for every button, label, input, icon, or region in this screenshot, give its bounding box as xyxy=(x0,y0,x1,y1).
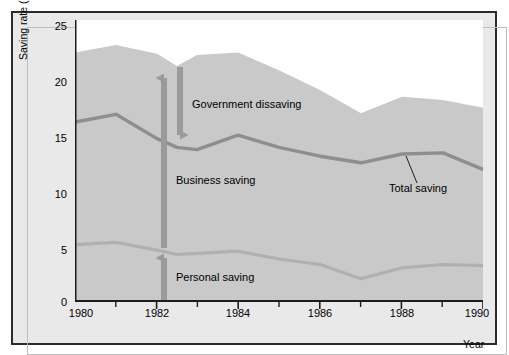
plot-area: Saving rate (percentage of GNP) 25 20 15… xyxy=(75,20,483,302)
chart-graphics xyxy=(75,20,483,330)
annotation-personal-saving: Personal saving xyxy=(176,272,254,283)
y-tick-label-25: 25 xyxy=(43,21,67,32)
y-axis-title: Saving rate (percentage of GNP) xyxy=(17,0,29,60)
y-tick-label-5: 5 xyxy=(43,245,67,256)
annotation-business-saving: Business saving xyxy=(176,175,256,186)
annotation-total-saving: Total saving xyxy=(389,183,447,194)
x-axis-ticks xyxy=(157,301,483,309)
x-axis-title: Year xyxy=(463,338,484,350)
figure: Saving rate (percentage of GNP) 25 20 15… xyxy=(0,0,509,355)
y-tick-label-15: 15 xyxy=(43,133,67,144)
annotation-government-dissaving: Government dissaving xyxy=(192,99,301,110)
y-tick-label-0: 0 xyxy=(43,297,67,308)
y-tick-label-20: 20 xyxy=(43,77,67,88)
y-tick-label-10: 10 xyxy=(43,189,67,200)
